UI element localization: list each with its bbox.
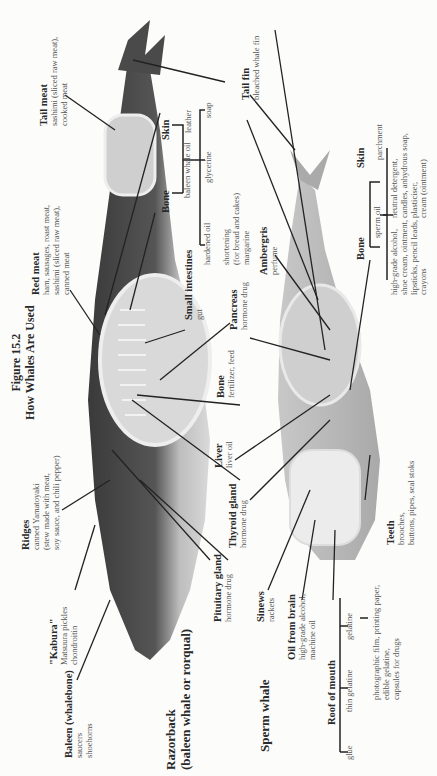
gelatine-uses: photographic film, printing paper, edibl… [372, 585, 401, 700]
sperm-skin-label: Skin [355, 148, 367, 168]
label-baleen: Baleen (whalebone) saucers shoehorns [63, 670, 95, 758]
sperm-body-cutaway [280, 285, 360, 405]
label-pancreas: Pancreas hormone drug [228, 282, 250, 330]
figure-title: Figure 15.2 How Whales Are Used [10, 305, 38, 420]
razorback-bone-label: Bone [160, 190, 172, 213]
label-ambergris: Ambergris perfume [258, 227, 280, 275]
label-oil-from-brain: Oil from brain high-grade alcohol, machi… [286, 594, 318, 660]
razorback-name: Razorback [163, 709, 178, 770]
razorback-tail-fluke [118, 20, 165, 75]
sperm-whale-tail-fluke [290, 150, 330, 190]
roof-of-mouth-label: Roof of mouth [326, 660, 338, 725]
label-tail-fin: Tail fin bleached whale fin [240, 36, 262, 100]
label-pituitary-gland: Pituitary gland hormone drug [212, 554, 234, 622]
glycerine: glycerine [204, 151, 214, 183]
shortening-margarine: shortening (for bread and cakes) margari… [222, 193, 251, 265]
figure-number: Figure 15.2 [10, 305, 24, 420]
gelatine: gelatine [345, 613, 355, 640]
razorback-tail-cutaway [105, 115, 155, 195]
label-tail-meat: Tail meat sashimi (sliced raw meat), coo… [38, 37, 70, 126]
thin-gelatine: thin gelatine [345, 670, 355, 712]
razorback-title: Razorback (baleen whale or rorqual) [164, 629, 194, 770]
figure-heading: How Whales Are Used [24, 305, 38, 420]
sperm-bone-label: Bone [355, 237, 367, 260]
baleen-whale-oil: baleen whale oil [183, 142, 193, 198]
label-sinews: Sinews rackets [255, 591, 277, 622]
label-ridges: Ridges canned Yamatoyaki (stew made with… [20, 455, 61, 550]
parchment: parchment [375, 124, 385, 160]
label-liver: Liver liver oil [213, 441, 235, 468]
label-thyroid-gland: Thyroid gland hormone drug [227, 484, 249, 548]
label-red-meat: Red meat ham, sausages, roast meat, sash… [30, 205, 71, 295]
label-bone-fertilizer: Bone fertilizer, feed [215, 350, 237, 398]
sperm-whale-title: Sperm whale [258, 679, 273, 752]
sperm-oil-uses-b: neutral detergent, candles, anhydrous so… [390, 133, 429, 218]
leather: leather [184, 110, 194, 133]
sperm-oil-uses-a: high-grade alcohol, shoe cream, ointment… [390, 220, 429, 295]
soap: soap [204, 102, 214, 118]
sperm-head-case [290, 450, 360, 545]
label-teeth: Teeth brooches, buttons, pipes, seal sto… [385, 461, 417, 545]
label-kabura: "Kabura" Matsuura pickles chondroitin [48, 607, 80, 665]
hardened-oil: hardened oil [203, 223, 213, 265]
razorback-skin-label: Skin [160, 120, 172, 140]
figure-15-2: Figure 15.2 How Whales Are Used Razorbac… [0, 0, 437, 776]
razorback-subtitle: (baleen whale or rorqual) [178, 629, 193, 770]
sperm-oil: sperm oil [373, 206, 383, 238]
glue: glue [345, 745, 355, 760]
